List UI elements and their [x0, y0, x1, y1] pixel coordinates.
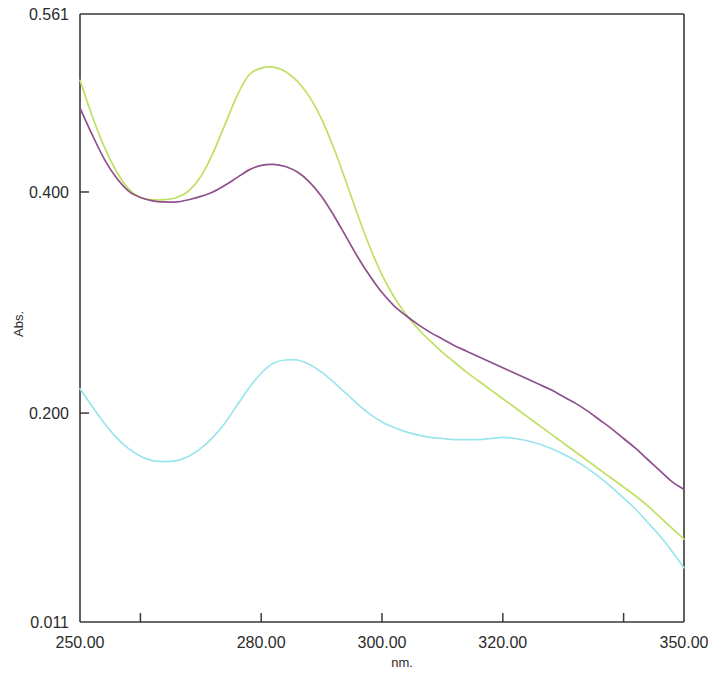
absorbance-spectrum-chart: 250.00280.00300.00320.00350.00 0.5610.40…: [0, 0, 708, 674]
x-tick-label-350: 350.00: [660, 634, 708, 651]
x-axis-ticks: [140, 613, 623, 622]
series-green-trace: [80, 67, 684, 539]
x-tick-label-300: 300.00: [358, 634, 407, 651]
x-tick-label-320: 320.00: [478, 634, 527, 651]
x-tick-label-280: 280.00: [237, 634, 286, 651]
chart-page: 250.00280.00300.00320.00350.00 0.5610.40…: [0, 0, 708, 674]
data-series-group: [80, 67, 684, 568]
y-tick-label-0.2: 0.200: [29, 405, 69, 422]
y-tick-label-0.4: 0.400: [29, 184, 69, 201]
x-axis-title: nm.: [391, 655, 413, 670]
y-tick-label-0.011: 0.011: [30, 614, 69, 631]
series-purple-trace: [80, 108, 684, 489]
x-axis-tick-labels: 250.00280.00300.00320.00350.00: [56, 634, 708, 651]
y-tick-label-0.561: 0.561: [29, 6, 69, 23]
plot-frame: [80, 14, 684, 622]
x-tick-label-250: 250.00: [56, 634, 105, 651]
y-axis-title: Abs.: [11, 311, 26, 337]
series-cyan-trace: [80, 360, 684, 568]
y-axis-ticks: [80, 192, 89, 413]
y-axis-tick-labels: 0.5610.4000.2000.011: [29, 6, 69, 631]
